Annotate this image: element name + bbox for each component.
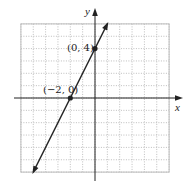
y-axis-arrow-icon [92,8,98,16]
axes [14,8,183,181]
coordinate-plane: x y (−2, 0) (0, 4) [0,0,194,185]
x-axis-label: x [174,101,180,113]
x-axis-arrow-icon [175,95,183,101]
y-axis-label: y [84,5,90,17]
point-label-y-intercept: (0, 4) [67,42,94,53]
point-x-intercept [68,95,73,100]
point-label-x-intercept: (−2, 0) [43,84,78,95]
